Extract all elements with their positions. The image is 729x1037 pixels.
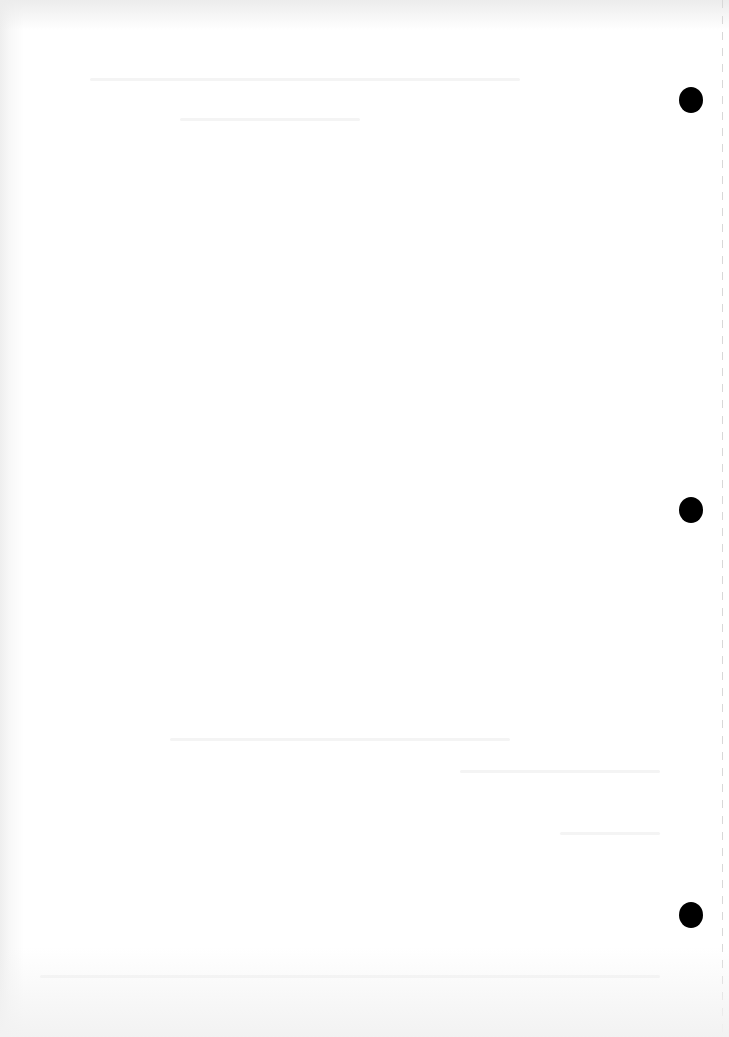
bottom-edge-shadow [0, 947, 729, 1037]
punch-hole-top [679, 87, 703, 113]
perforation-line [722, 0, 723, 1037]
scanned-page [0, 0, 729, 1037]
punch-hole-bottom [679, 902, 703, 928]
bleed-through-text [90, 78, 520, 81]
bleed-through-text [170, 738, 510, 741]
top-edge-shadow [0, 0, 729, 30]
bleed-through-text [460, 770, 660, 773]
punch-hole-middle [679, 497, 703, 523]
bleed-through-text [560, 832, 660, 835]
bleed-through-text [180, 118, 360, 121]
